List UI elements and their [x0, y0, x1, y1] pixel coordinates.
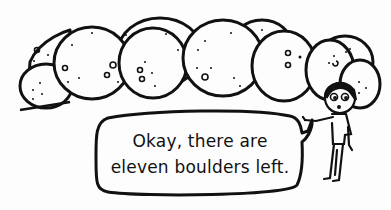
- boulder-2: [119, 28, 187, 98]
- speech-bubble-text: Okay, there are eleven boulders left.: [100, 128, 300, 180]
- boulder-3: [183, 20, 263, 96]
- comic-panel: Okay, there are eleven boulders left.: [0, 0, 391, 210]
- speech-line-2: eleven boulders left.: [100, 154, 300, 180]
- speech-line-1: Okay, there are: [100, 128, 300, 154]
